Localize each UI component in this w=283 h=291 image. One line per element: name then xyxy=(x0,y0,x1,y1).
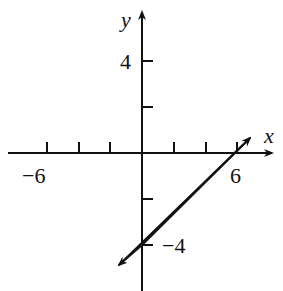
tick-label-neg6: −6 xyxy=(22,163,45,188)
tick-label-6: 6 xyxy=(230,163,241,188)
coordinate-plane: y x 4 −4 −6 6 xyxy=(0,0,283,291)
y-axis-label: y xyxy=(119,7,131,32)
tick-label-neg4: −4 xyxy=(162,233,185,258)
tick-label-4: 4 xyxy=(120,49,131,74)
x-axis-label: x xyxy=(263,123,274,148)
